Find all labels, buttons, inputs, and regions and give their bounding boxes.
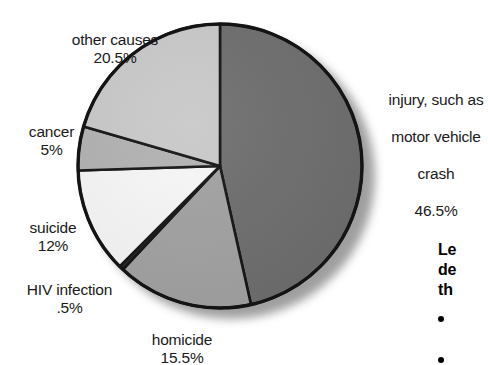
- pie-label-other-causes-value: 20.5%: [40, 49, 190, 68]
- pie-label-hiv-infection: HIV infection .5%: [2, 262, 137, 336]
- pie-label-injury-value: 46.5%: [356, 202, 488, 221]
- bullet-dot-icon: [438, 357, 444, 363]
- sidebar-note-line-1: Le: [438, 240, 488, 260]
- pie-label-homicide: homicide 15.5%: [118, 312, 246, 365]
- sidebar-note: Le de th: [438, 240, 488, 363]
- sidebar-note-line-3: th: [438, 280, 488, 300]
- sidebar-note-bullet-2: [438, 350, 488, 363]
- pie-label-suicide-value: 12%: [4, 237, 102, 256]
- pie-label-homicide-name: homicide: [152, 331, 212, 348]
- pie-label-homicide-value: 15.5%: [118, 349, 246, 365]
- pie-label-injury-line2: motor vehicle: [356, 128, 488, 147]
- pie-label-suicide-name: suicide: [30, 219, 77, 236]
- sidebar-note-bullet-1: [438, 309, 488, 322]
- pie-label-cancer: cancer 5%: [4, 104, 99, 178]
- pie-label-cancer-value: 5%: [4, 141, 99, 160]
- pie-label-other-causes-name: other causes: [72, 31, 158, 48]
- pie-label-hiv-infection-name: HIV infection: [27, 281, 112, 298]
- pie-label-other-causes: other causes 20.5%: [40, 12, 190, 86]
- pie-label-injury-line1: injury, such as: [356, 91, 488, 110]
- sidebar-note-line-2: de: [438, 260, 488, 280]
- pie-label-hiv-infection-value: .5%: [2, 299, 137, 318]
- pie-label-injury-line3: crash: [356, 165, 488, 184]
- pie-label-cancer-name: cancer: [29, 123, 74, 140]
- pie-label-injury: injury, such as motor vehicle crash 46.5…: [356, 72, 488, 239]
- bullet-dot-icon: [438, 316, 444, 322]
